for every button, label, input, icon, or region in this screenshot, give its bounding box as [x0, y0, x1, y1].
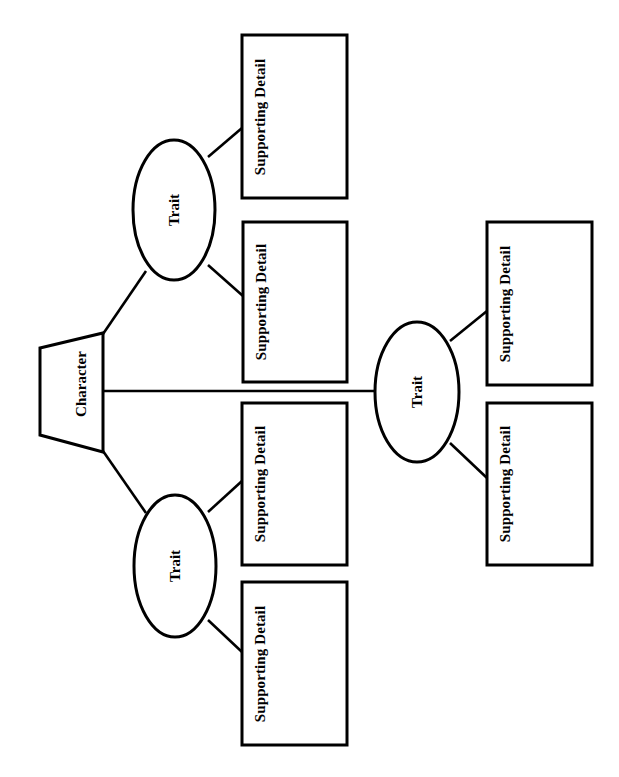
connector-root-to-trait-top: [103, 271, 146, 334]
detail-box-5[interactable]: [242, 403, 347, 565]
detail-box-3[interactable]: [487, 222, 592, 385]
connector-trait-bottom-to-detail-5: [208, 481, 242, 512]
connector-trait-right-to-detail-4: [450, 443, 487, 478]
trait-ellipse-right[interactable]: [375, 322, 459, 462]
connector-trait-bottom-to-detail-6: [208, 620, 242, 652]
trait-ellipse-top[interactable]: [133, 140, 215, 280]
detail-box-1[interactable]: [242, 35, 347, 198]
connector-trait-right-to-detail-3: [450, 311, 487, 341]
diagram-svg: [0, 0, 619, 777]
character-trapezoid[interactable]: [40, 333, 103, 452]
connector-trait-top-to-detail-2: [208, 265, 243, 296]
detail-box-6[interactable]: [242, 582, 347, 745]
diagram-canvas: Character Trait Trait Trait Supporting D…: [0, 0, 619, 777]
connector-trait-top-to-detail-1: [208, 128, 242, 157]
trait-ellipse-bottom[interactable]: [134, 495, 216, 637]
detail-box-2[interactable]: [243, 222, 347, 382]
connector-root-to-trait-bottom: [103, 451, 146, 513]
detail-box-4[interactable]: [487, 403, 592, 565]
